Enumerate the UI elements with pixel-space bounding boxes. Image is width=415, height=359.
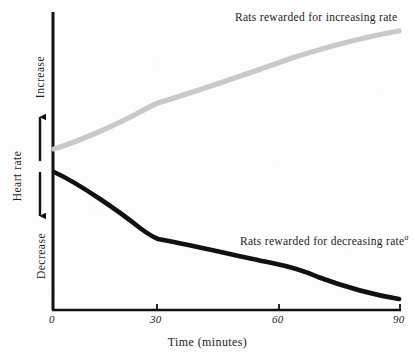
series-label-decreasing-text: Rats rewarded for decreasing rate xyxy=(240,235,404,247)
chart-figure: 0 30 60 90 Time (minutes) Heart rate Inc… xyxy=(0,0,415,359)
series-label-decreasing: Rats rewarded for decreasing ratea xyxy=(240,233,409,247)
x-tick-label-60: 60 xyxy=(272,313,283,325)
x-tick-label-90: 90 xyxy=(393,313,404,325)
series-label-increasing: Rats rewarded for increasing rate xyxy=(235,11,398,23)
y-axis-increase-label: Increase xyxy=(34,48,46,106)
x-tick-label-0: 0 xyxy=(49,313,55,325)
x-tick-label-30: 30 xyxy=(150,313,161,325)
x-axis-title: Time (minutes) xyxy=(0,335,415,350)
series-line-increasing xyxy=(54,31,399,149)
y-axis-title: Heart rate xyxy=(11,146,23,206)
y-axis-decrease-label: Decrease xyxy=(35,226,47,286)
chart-plot-area xyxy=(0,0,415,359)
series-label-decreasing-footnote: a xyxy=(404,233,408,242)
